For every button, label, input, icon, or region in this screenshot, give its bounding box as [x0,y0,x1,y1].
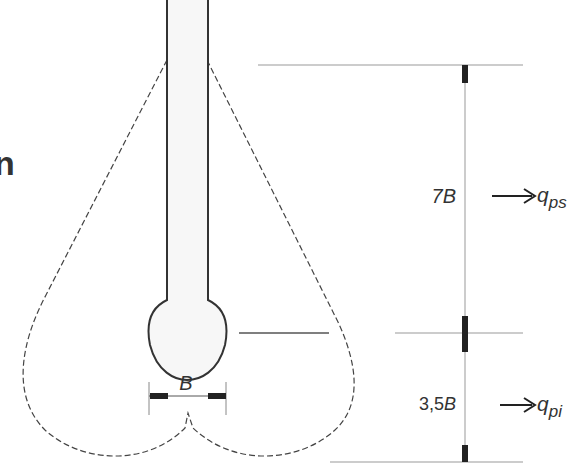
pile-pressure-diagram: n B 7B qps 3,5B qpi [0,0,579,467]
partial-letter: n [0,144,15,182]
arrow-icon [492,189,535,203]
pile-shaft [149,0,227,380]
width-label: B [179,372,192,394]
depth-dimension [258,65,523,462]
lower-zone-pressure-label: qpi [537,392,563,421]
arrow-icon [500,398,535,412]
upper-zone-label: 7B [432,185,456,207]
upper-zone-pressure-label: qps [537,183,567,212]
lower-zone-label: 3,5B [419,394,456,414]
